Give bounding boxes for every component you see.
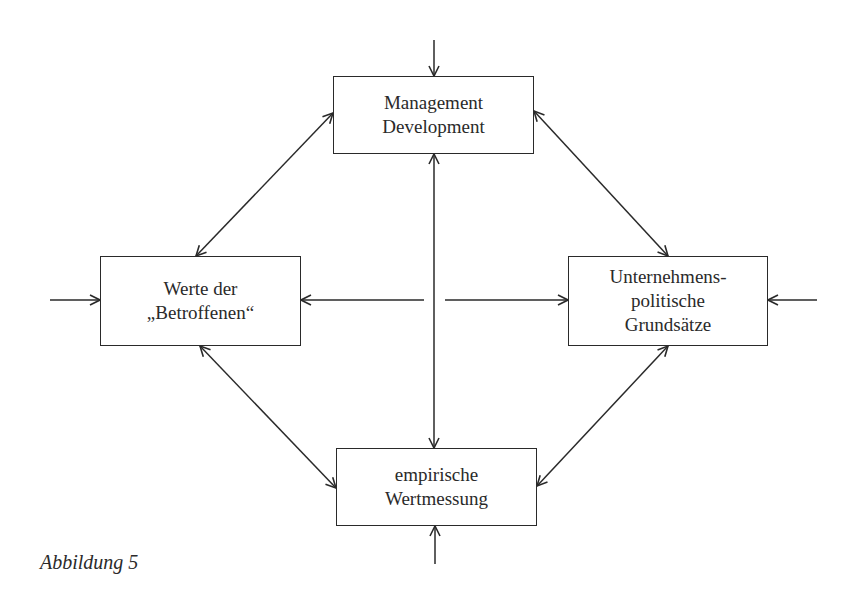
edge-left-bottom: [200, 346, 336, 488]
node-label-line: Unternehmens-: [609, 265, 726, 289]
node-label-line: politische: [631, 289, 705, 313]
node-label-line: Management: [384, 91, 483, 115]
node-label-line: „Betroffenen“: [147, 301, 254, 325]
edge-top-right: [534, 111, 668, 256]
node-label-line: Development: [382, 115, 484, 139]
node-label-line: Werte der: [164, 277, 238, 301]
edge-top-left: [196, 113, 333, 256]
node-management-development: Management Development: [333, 76, 534, 154]
node-label-line: empirische: [395, 463, 478, 487]
node-empirische-wertmessung: empirische Wertmessung: [336, 448, 537, 526]
node-werte-der-betroffenen: Werte der „Betroffenen“: [100, 256, 301, 346]
node-unternehmenspolitische-grundsaetze: Unternehmens- politische Grundsätze: [568, 256, 768, 346]
node-label-line: Wertmessung: [385, 487, 488, 511]
figure-caption: Abbildung 5: [40, 551, 138, 574]
edge-right-bottom: [537, 346, 668, 486]
node-label-line: Grundsätze: [625, 313, 712, 337]
